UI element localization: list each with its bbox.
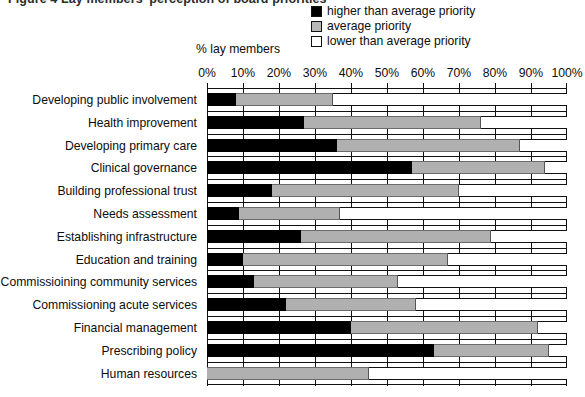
legend-item: average priority (311, 19, 579, 34)
bar-segment (351, 321, 538, 334)
bar-segment (236, 93, 333, 106)
bar-row (207, 340, 567, 363)
bar-segment (549, 344, 567, 357)
bar-segment (304, 116, 480, 129)
legend: higher than average priorityaverage prio… (311, 4, 579, 49)
plot-area (207, 88, 567, 386)
stacked-bar (207, 344, 567, 357)
legend-label: average priority (327, 19, 411, 34)
bar-segment (333, 93, 567, 106)
bar-segment (207, 253, 243, 266)
bar-segment (272, 184, 459, 197)
y-axis-label: Establishing infrastructure (0, 226, 202, 249)
x-tick-label: 90% (519, 66, 543, 80)
x-tick-label: 50% (375, 66, 399, 80)
bar-row (207, 249, 567, 272)
x-tick-label: 20% (267, 66, 291, 80)
bar-row (207, 112, 567, 135)
stacked-bar (207, 367, 567, 380)
y-axis-label: Human resources (0, 363, 202, 386)
stacked-bar (207, 139, 567, 152)
y-axis-category-labels: Developing public involvementHealth impr… (0, 89, 202, 385)
bar-row (207, 294, 567, 317)
gray-square-icon (311, 21, 322, 32)
legend-item: lower than average priority (311, 34, 579, 49)
bar-rows (207, 89, 567, 385)
white-square-icon (311, 36, 322, 47)
figure-caption: Figure 4 Lay members' perception of boar… (8, 0, 327, 6)
y-axis-label: Commissioning acute services (0, 294, 202, 317)
bar-row (207, 317, 567, 340)
x-tick-label: 80% (483, 66, 507, 80)
y-axis-label: Developing primary care (0, 135, 202, 158)
bar-segment (337, 139, 521, 152)
bar-segment (254, 275, 398, 288)
bar-segment (207, 207, 239, 220)
bar-row (207, 180, 567, 203)
bar-segment (207, 344, 434, 357)
bar-segment (520, 139, 567, 152)
bar-segment (412, 161, 545, 174)
y-axis-label: Commissioining community services (0, 271, 202, 294)
stacked-bar (207, 321, 567, 334)
legend-label: lower than average priority (327, 34, 471, 49)
bar-row (207, 203, 567, 226)
stacked-bar (207, 230, 567, 243)
x-tick-label: 40% (339, 66, 363, 80)
bar-row (207, 271, 567, 294)
legend-label: higher than average priority (327, 4, 475, 19)
y-axis-label: Developing public involvement (0, 89, 202, 112)
stacked-bar (207, 93, 567, 106)
stacked-bar (207, 253, 567, 266)
y-axis-label: Needs assessment (0, 203, 202, 226)
bar-segment (207, 139, 337, 152)
bar-segment (239, 207, 340, 220)
x-tick-label: 60% (411, 66, 435, 80)
bar-row (207, 226, 567, 249)
x-tick-label: 100% (551, 66, 582, 80)
bar-segment (207, 116, 304, 129)
bar-segment (434, 344, 549, 357)
y-axis-label: Prescribing policy (0, 340, 202, 363)
bar-segment (207, 93, 236, 106)
x-tick-label: 70% (447, 66, 471, 80)
y-axis-label: Financial management (0, 317, 202, 340)
bar-segment (416, 298, 567, 311)
bar-segment (207, 161, 412, 174)
x-axis-tick-labels: 0%10%20%30%40%50%60%70%80%90%100% (207, 66, 567, 82)
y-axis-label: Building professional trust (0, 180, 202, 203)
bar-segment (207, 184, 272, 197)
bar-segment (207, 298, 286, 311)
stacked-bar (207, 184, 567, 197)
stacked-bar (207, 161, 567, 174)
bar-segment (459, 184, 567, 197)
stacked-bar (207, 275, 567, 288)
bar-row (207, 157, 567, 180)
bar-segment (207, 321, 351, 334)
bar-segment (369, 367, 567, 380)
bar-row (207, 363, 567, 386)
stacked-bar (207, 207, 567, 220)
bar-row (207, 89, 567, 112)
x-tick-label: 30% (303, 66, 327, 80)
bar-segment (207, 230, 301, 243)
bar-segment (491, 230, 567, 243)
bar-segment (448, 253, 567, 266)
bar-segment (301, 230, 492, 243)
y-axis-label: Clinical governance (0, 157, 202, 180)
x-axis-caption: % lay members (196, 42, 280, 56)
bar-segment (207, 367, 369, 380)
bar-segment (538, 321, 567, 334)
legend-item: higher than average priority (311, 4, 579, 19)
bar-segment (207, 275, 254, 288)
bar-segment (481, 116, 567, 129)
x-tick-label: 0% (198, 66, 216, 80)
stacked-bar (207, 116, 567, 129)
bar-segment (243, 253, 448, 266)
bar-segment (545, 161, 567, 174)
y-axis-label: Health improvement (0, 112, 202, 135)
bar-segment (340, 207, 567, 220)
x-tick-label: 10% (231, 66, 255, 80)
bar-segment (286, 298, 416, 311)
bar-row (207, 135, 567, 158)
